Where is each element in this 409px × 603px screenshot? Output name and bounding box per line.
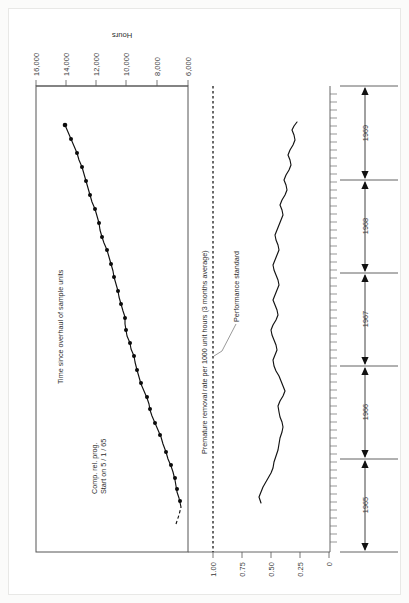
hours-axis: 16,000 14,000 12,000 10,000 8,000 6,000 … (32, 31, 193, 86)
year-label-1967: 1967 (361, 311, 370, 327)
hours-tick-label-6000: 6,000 (184, 57, 193, 76)
rate-tick-label-1-00: 1.00 (209, 562, 218, 577)
time-since-overhaul-line (65, 125, 181, 507)
year-label-1966: 1966 (361, 404, 370, 420)
rotated-chart-figure: 16,000 14,000 12,000 10,000 8,000 6,000 … (0, 0, 409, 603)
rate-axis: 1.00 0.75 0.50 0.25 0 (188, 552, 334, 577)
year-label-1969: 1969 (361, 125, 370, 141)
time-axis: 1965 1966 1967 1968 1969 (330, 86, 398, 552)
performance-standard-leader (214, 324, 236, 356)
rate-tick-label-0-25: 0.25 (296, 562, 305, 577)
hours-tick-label-12000: 12,000 (92, 53, 101, 76)
premature-removal-rate-line (259, 122, 297, 503)
series-dashed-start-tail (176, 507, 181, 524)
year-label-1968: 1968 (361, 218, 370, 234)
scan-page: 16,000 14,000 12,000 10,000 8,000 6,000 … (0, 0, 409, 603)
hours-axis-title: Hours (112, 31, 132, 40)
hours-tick-label-10000: 10,000 (122, 53, 131, 76)
hours-tick-label-16000: 16,000 (32, 53, 41, 76)
hours-tick-label-14000: 14,000 (62, 53, 71, 76)
rate-series-label: Premature removal rate per 1000 unit hou… (200, 250, 209, 454)
performance-standard-label: Performance standard (232, 251, 241, 322)
year-label-1965: 1965 (361, 497, 370, 513)
rate-tick-label-0-50: 0.50 (267, 562, 276, 577)
rate-tick-label-0: 0 (325, 562, 334, 566)
rate-tick-label-0-75: 0.75 (238, 562, 247, 577)
program-note-line2: Start on 5 / 1 / 65 (99, 439, 108, 494)
time-since-overhaul-series (63, 123, 182, 524)
series-caption-time-since-overhaul: Time since overhaul of sample units (56, 269, 65, 384)
hours-tick-label-8000: 8,000 (153, 57, 162, 76)
program-note-line1: Comp. rel. prog. (90, 442, 99, 494)
time-axis-month-ticks (330, 94, 337, 542)
